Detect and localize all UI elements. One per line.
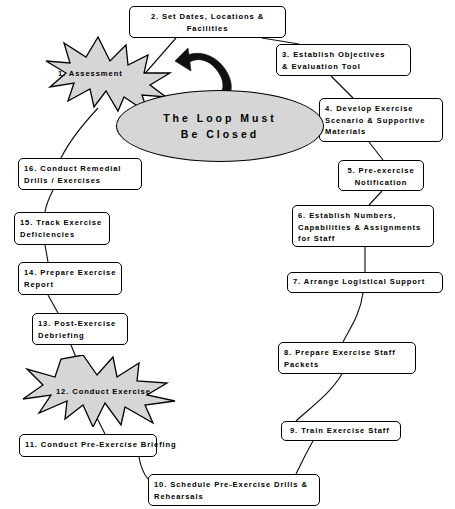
loop-must-be-closed-ellipse: The Loop Must Be Closed [116,90,324,162]
node-10-schedule-drills[interactable]: 10. Schedule Pre-Exercise Drills & Rehea… [148,474,320,506]
node-7-arrange-logistical-support[interactable]: 7. Arrange Logistical Support [287,272,443,293]
node-15-track-exercise-deficiencies[interactable]: 15. Track Exercise Deficiencies [14,212,110,245]
node-13-post-exercise-debriefing[interactable]: 13. Post-Exercise Debriefing [32,313,128,345]
node-8-prepare-staff-packets[interactable]: 8. Prepare Exercise Staff Packets [278,342,416,374]
node-6-establish-numbers[interactable]: 6. Establish Numbers, Capabilities & Ass… [292,205,434,247]
node-4-develop-scenario[interactable]: 4. Develop Exercise Scenario & Supportiv… [319,98,443,142]
node-14-prepare-exercise-report[interactable]: 14. Prepare Exercise Report [18,262,122,295]
node-16-conduct-remedial-drills[interactable]: 16. Conduct Remedial Drills / Exercises [18,158,142,190]
node-3-establish-objectives[interactable]: 3. Establish Objectives & Evaluation Too… [276,44,411,76]
node-9-train-exercise-staff[interactable]: 9. Train Exercise Staff [281,421,401,441]
node-1-label: 1. Assessment [58,69,123,78]
node-12-conduct-exercise[interactable]: 12. Conduct Exercise [21,355,177,427]
node-5-pre-exercise-notification[interactable]: 5. Pre-exercise Notification [338,160,424,191]
process-loop-diagram: 1. Assessment 2. Set Dates, Locations & … [0,0,455,509]
node-12-label: 12. Conduct Exercise [56,387,151,396]
node-2-set-dates[interactable]: 2. Set Dates, Locations & Facilities [129,6,286,38]
node-11-conduct-briefing[interactable]: 11. Conduct Pre-Exercise Briefing [19,434,157,457]
node-11-label: 11. Conduct Pre-Exercise Briefing [25,439,177,451]
